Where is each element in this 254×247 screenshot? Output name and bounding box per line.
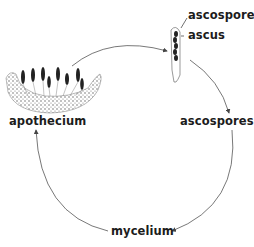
arrow-apothecium-to-ascus	[72, 46, 167, 66]
arrow-ascus-to-ascospores	[190, 60, 229, 113]
label-ascospore: ascospore	[188, 8, 254, 22]
ascus-illustration	[171, 18, 187, 82]
label-apothecium: apothecium	[9, 114, 86, 128]
life-cycle-diagram: ascospore ascus apothecium ascospores my…	[0, 0, 254, 247]
arrow-ascospores-to-mycelium	[172, 130, 233, 231]
label-ascus: ascus	[188, 28, 225, 42]
arrow-mycelium-to-apothecium	[36, 130, 108, 231]
label-mycelium: mycelium	[111, 224, 174, 238]
apothecium-illustration	[6, 67, 101, 113]
label-ascospores: ascospores	[180, 114, 254, 128]
